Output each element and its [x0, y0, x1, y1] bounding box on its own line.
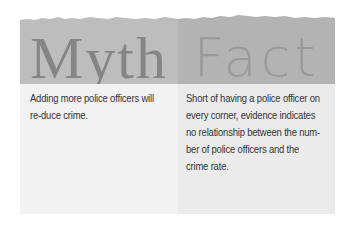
body-row: Adding more police officers will re-duce…: [20, 84, 335, 214]
fact-heading: Fact: [193, 30, 319, 84]
myth-body: Adding more police officers will re-duce…: [20, 84, 178, 214]
myth-header: Myth: [20, 22, 178, 84]
myth-text: Adding more police officers will re-duce…: [30, 90, 165, 124]
myth-fact-panel: Myth Fact Adding more police officers wi…: [20, 14, 335, 214]
fact-text: Short of having a police officer on ever…: [186, 90, 321, 175]
fact-header: Fact: [178, 22, 335, 84]
fact-body: Short of having a police officer on ever…: [178, 84, 335, 214]
header-band: Myth Fact: [20, 22, 335, 84]
myth-heading: Myth: [30, 30, 168, 84]
